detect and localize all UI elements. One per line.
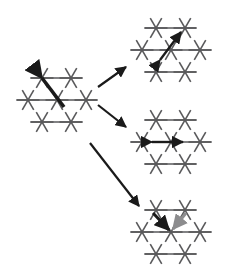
lattice-vertex-star	[174, 110, 197, 130]
lattice-transition-figure	[0, 0, 228, 271]
lattice-vertex-star	[145, 244, 168, 264]
transition-arrow-to-top	[98, 67, 126, 87]
lattice-vertex-star	[174, 244, 197, 264]
lattice-vertex-star	[131, 222, 154, 242]
lattice-vertex-star	[31, 112, 54, 132]
lattice-vertex-star	[17, 90, 40, 110]
lattice-vertex-star	[131, 40, 154, 60]
result-lattice-top	[131, 18, 212, 82]
result-lattice-bottom	[131, 200, 212, 264]
lattice-vertex-star	[174, 18, 197, 38]
lattice-vertex-star	[131, 132, 154, 152]
lattice-vertex-star	[189, 222, 212, 242]
lattice-vertex-star	[189, 40, 212, 60]
lattice-vertex-star	[75, 90, 98, 110]
lattice-vertex-star	[174, 62, 197, 82]
lattice-vertex-star	[60, 112, 83, 132]
source-state-lattice	[17, 68, 98, 132]
lattice-vertex-star	[145, 110, 168, 130]
lattice-vertex-star	[174, 154, 197, 174]
lattice-vertex-star	[145, 62, 168, 82]
transition-arrow-to-bottom	[90, 143, 139, 206]
transition-arrow-to-middle	[98, 105, 126, 127]
gray-arrow-in-right	[173, 213, 186, 229]
dark-arrow-in-left	[153, 213, 169, 230]
result-lattice-middle	[131, 110, 212, 174]
lattice-vertex-star	[145, 154, 168, 174]
lattice-vertex-star	[189, 132, 212, 152]
lattice-vertex-star	[60, 68, 83, 88]
lattice-vertex-star	[145, 18, 168, 38]
double-arrow-diagonal	[160, 32, 181, 60]
figure-canvas	[0, 0, 228, 271]
lattice-vertex-star	[174, 200, 197, 220]
